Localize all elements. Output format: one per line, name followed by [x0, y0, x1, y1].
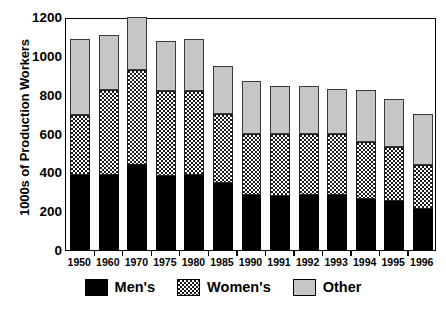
bar-segment-men-s [242, 195, 262, 250]
bar-group [299, 17, 319, 250]
x-tick-label: 1975 [153, 256, 176, 270]
bar-segment-women-s [242, 134, 262, 195]
bar-group [356, 17, 376, 250]
bar-group [99, 17, 119, 250]
bar-group [127, 17, 147, 250]
x-tick-label: 1985 [210, 256, 233, 270]
bar-group [242, 17, 262, 250]
bar-group [156, 17, 176, 250]
stacked-bar-chart: 1000s of Production Workers 020040060080… [0, 0, 446, 310]
bar-segment-other [127, 17, 147, 70]
bar-segment-men-s [70, 175, 90, 250]
bar-segment-other [99, 35, 119, 89]
bar-segment-women-s [70, 115, 90, 175]
y-tick-label: 800 [14, 89, 62, 103]
x-tick-label: 1990 [239, 256, 262, 270]
bar-segment-other [299, 86, 319, 134]
bar-segment-women-s [127, 70, 147, 164]
bar-segment-other [327, 89, 347, 135]
legend-entry: Other [293, 279, 362, 296]
bar-segment-men-s [127, 165, 147, 250]
bar-segment-other [413, 114, 433, 164]
bars-layer [66, 19, 435, 250]
x-tick-label: 1994 [353, 256, 376, 270]
bar-segment-other [184, 39, 204, 90]
x-axis-tick-labels: 1950196019701975198019851990199119921993… [65, 256, 436, 272]
x-tick-label: 1993 [324, 256, 347, 270]
legend-label: Women's [207, 280, 271, 295]
hatched-swatch [177, 279, 200, 296]
x-tick-label: 1970 [125, 256, 148, 270]
bar-group [384, 17, 404, 250]
y-tick-label: 400 [14, 167, 62, 181]
y-axis-tick-labels: 020040060080010001200 [14, 0, 62, 310]
bar-segment-other [70, 39, 90, 115]
bar-segment-men-s [384, 201, 404, 250]
x-tick-label: 1992 [296, 256, 319, 270]
bar-segment-men-s [99, 175, 119, 250]
bar-segment-women-s [156, 91, 176, 176]
bar-segment-men-s [156, 176, 176, 250]
gray-swatch [293, 279, 316, 296]
bar-segment-women-s [99, 90, 119, 175]
bar-segment-women-s [384, 147, 404, 201]
bar-segment-men-s [213, 183, 233, 250]
bar-segment-other [242, 81, 262, 133]
legend-entry: Men's [85, 279, 156, 296]
bar-segment-women-s [356, 142, 376, 198]
legend-entry: Women's [177, 279, 271, 296]
x-tick-label: 1991 [267, 256, 290, 270]
x-tick-label: 1996 [410, 256, 433, 270]
y-tick-label: 200 [14, 205, 62, 219]
bar-segment-women-s [299, 134, 319, 195]
bar-segment-other [356, 90, 376, 142]
bar-segment-other [270, 86, 290, 134]
bar-group [270, 17, 290, 250]
bar-segment-men-s [184, 175, 204, 250]
y-tick-label: 0 [14, 244, 62, 258]
x-tick-label: 1960 [96, 256, 119, 270]
y-tick-label: 600 [14, 128, 62, 142]
legend-label: Men's [115, 280, 156, 295]
x-tick-label: 1995 [382, 256, 405, 270]
bar-segment-women-s [184, 91, 204, 175]
bar-segment-women-s [213, 114, 233, 183]
bar-group [327, 17, 347, 250]
bar-segment-women-s [327, 134, 347, 194]
bar-segment-men-s [356, 199, 376, 250]
plot-area [65, 18, 436, 251]
bar-segment-men-s [299, 195, 319, 250]
bar-segment-other [156, 41, 176, 91]
bar-group [213, 17, 233, 250]
bar-segment-men-s [270, 196, 290, 250]
bar-segment-other [213, 66, 233, 115]
y-tick-label: 1200 [14, 11, 62, 25]
bar-segment-women-s [270, 134, 290, 196]
bar-group [184, 17, 204, 250]
bar-segment-other [384, 99, 404, 148]
bar-group [413, 17, 433, 250]
legend-label: Other [323, 280, 362, 295]
bar-segment-women-s [413, 165, 433, 210]
bar-segment-men-s [327, 195, 347, 250]
y-tick-label: 1000 [14, 50, 62, 64]
bar-group [70, 17, 90, 250]
x-tick-label: 1950 [68, 256, 91, 270]
black-swatch [85, 279, 108, 296]
x-tick-label: 1980 [182, 256, 205, 270]
bar-segment-men-s [413, 209, 433, 250]
chart-legend: Men'sWomen'sOther [0, 279, 446, 296]
